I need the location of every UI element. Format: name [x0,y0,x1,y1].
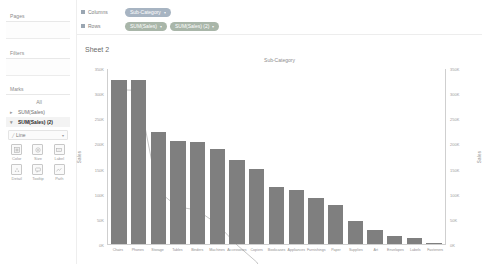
bar[interactable] [269,187,284,244]
pill-sum-sales[interactable]: SUM(Sales) ▾ [125,22,167,31]
bar-slot[interactable] [247,69,267,244]
pill-sub-category[interactable]: Sub-Category ▾ [125,8,171,17]
bar-slot[interactable] [365,69,385,244]
bar[interactable] [210,149,225,244]
mark-type-dropdown[interactable]: ╱ Line ▾ [8,130,68,140]
x-axis-label[interactable]: Art [366,245,386,261]
marks-layer-all[interactable]: All [6,97,70,107]
marks-detail-button[interactable]: Detail [6,163,27,182]
bar[interactable] [308,198,323,244]
viz-area: Columns Sub-Category ▾ Rows SUM(Sales) ▾… [76,0,482,264]
bar[interactable] [131,80,146,244]
bar[interactable] [249,169,264,244]
bar[interactable] [387,236,402,244]
filters-shelf[interactable]: Filters [6,45,70,76]
x-axis-labels: ChairsPhonesStorageTablesBindersMachines… [107,245,446,261]
bar[interactable] [328,205,343,244]
rows-shelf-label: Rows [88,23,101,29]
bar-slot[interactable] [405,69,425,244]
mark-type-value: Line [16,132,25,138]
bar-slot[interactable] [267,69,287,244]
bar-slot[interactable] [227,69,247,244]
columns-shelf-label-wrap: Columns [81,9,125,15]
x-axis-label[interactable]: Envelopes [386,245,406,261]
marks-card-body: All ▸ SUM(Sales) ▾ SUM(Sales) (2) ╱ Line… [6,94,70,182]
x-axis-label[interactable]: Labels [405,245,425,261]
worksheet-title[interactable]: Sheet 2 [83,45,114,55]
bar-slot[interactable] [345,69,365,244]
marks-layer-sum-sales[interactable]: ▸ SUM(Sales) [6,107,70,117]
bar-slot[interactable] [306,69,326,244]
chevron-right-icon: ▸ [10,109,15,115]
x-axis-label[interactable]: Copiers [247,245,267,261]
bar-slot[interactable] [129,69,149,244]
pages-shelf-well[interactable] [6,21,70,39]
rows-shelf[interactable]: Rows SUM(Sales) ▾ SUM(Sales) (2) ▾ [81,20,482,32]
y-axis-tick: 150K [450,167,459,172]
y-axis-left: Sales 350K300K250K200K150K100K50K0K [77,69,107,245]
pages-shelf-label: Pages [6,11,70,21]
line-mark-icon: ╱ [12,133,14,138]
bar-slot[interactable] [385,69,405,244]
marks-label-label: Label [54,156,64,161]
columns-shelf[interactable]: Columns Sub-Category ▾ [81,6,482,18]
y-axis-tick: 350K [450,67,459,72]
marks-color-button[interactable]: Color [6,143,27,162]
bar-slot[interactable] [148,69,168,244]
x-axis-label[interactable]: Storage [148,245,168,261]
bar[interactable] [170,141,185,244]
x-axis-label[interactable]: Appliances [286,245,306,261]
marks-layer-sum-sales-2[interactable]: ▾ SUM(Sales) (2) [6,117,70,127]
x-axis-label[interactable]: Supplies [346,245,366,261]
marks-tooltip-label: Tooltip [32,176,44,181]
x-axis-label[interactable]: Paper [326,245,346,261]
bar[interactable] [289,190,304,244]
bar[interactable] [229,160,244,244]
bar-slot[interactable] [188,69,208,244]
bar-slot[interactable] [326,69,346,244]
bar-slot[interactable] [424,69,444,244]
bar-slot[interactable] [286,69,306,244]
marks-label-button[interactable]: Label [49,143,70,162]
marks-layer-all-label: All [36,99,42,105]
pill-label: Sub-Category [130,9,161,15]
bar-slot[interactable] [208,69,228,244]
marks-card: Marks All ▸ SUM(Sales) ▾ SUM(Sales) (2) … [0,86,76,182]
bar[interactable] [367,230,382,244]
x-axis-label[interactable]: Binders [187,245,207,261]
pages-shelf[interactable]: Pages [6,8,70,39]
bar[interactable] [348,221,363,244]
bar[interactable] [426,243,441,245]
columns-shelf-label: Columns [88,9,108,15]
y-axis-tick: 150K [95,167,104,172]
y-axis-tick: 200K [450,142,459,147]
chevron-down-icon: ▾ [212,24,214,29]
x-axis-label[interactable]: Tables [167,245,187,261]
x-axis-label[interactable]: Accessories [227,245,247,261]
filters-shelf-well[interactable] [6,58,70,76]
x-axis-label[interactable]: Bookcases [267,245,287,261]
y-axis-tick: 50K [450,217,457,222]
pill-sum-sales-2[interactable]: SUM(Sales) (2) ▾ [170,22,219,31]
size-icon [32,144,43,155]
x-axis-label[interactable]: Furnishings [306,245,326,261]
bar-slot[interactable] [168,69,188,244]
bar[interactable] [111,80,126,244]
marks-path-button[interactable]: Path [49,163,70,182]
y-axis-tick: 200K [95,142,104,147]
marks-layer-label: SUM(Sales) [18,109,45,115]
x-axis-label[interactable]: Phones [128,245,148,261]
bar[interactable] [407,238,422,244]
bar[interactable] [151,132,166,244]
x-axis-label[interactable]: Machines [207,245,227,261]
marks-tooltip-button[interactable]: Tooltip [27,163,48,182]
chevron-down-icon: ▾ [164,10,166,15]
rows-shelf-label-wrap: Rows [81,23,125,29]
bar[interactable] [190,142,205,244]
bar-slot[interactable] [109,69,129,244]
marks-size-button[interactable]: Size [27,143,48,162]
filters-shelf-label: Filters [6,48,70,58]
x-axis-label[interactable]: Fasteners [425,245,445,261]
x-axis-label[interactable]: Chairs [108,245,128,261]
path-icon [54,164,65,175]
